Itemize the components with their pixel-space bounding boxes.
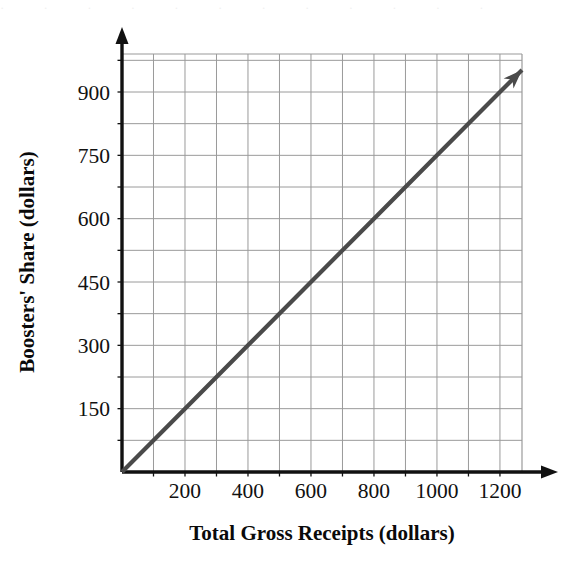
x-tick-label: 200 [169,479,201,503]
data-line-boosters-share [122,65,527,472]
x-tick-labels-group: 20040060080010001200 [169,479,522,503]
horizontal-gridlines-group [122,60,522,440]
y-tick-label: 900 [78,81,110,105]
y-tick-label: 750 [78,144,110,168]
tick-marks-group [118,60,500,476]
y-tick-label: 150 [78,397,110,421]
x-tick-label: 400 [232,479,264,503]
y-tick-labels-group: 150300450600750900 [78,81,110,422]
x-tick-label: 600 [295,479,327,503]
y-tick-label: 450 [78,271,110,295]
x-tick-label: 1200 [478,479,521,503]
y-tick-label: 600 [78,207,110,231]
y-axis-title: Boosters' Share (dollars) [15,151,39,372]
chart-container: · · · · · · · · · · · · 2004006008001000… [0,0,574,566]
vertical-gridlines-group [153,54,499,472]
x-tick-label: 800 [358,479,390,503]
data-line [122,70,522,472]
coordinate-plot: 20040060080010001200 150300450600750900 … [0,0,574,566]
x-axis-title: Total Gross Receipts (dollars) [189,521,454,545]
x-axis-arrowhead-icon [541,466,558,479]
y-axis-arrowhead-icon [116,27,129,44]
x-tick-label: 1000 [415,479,458,503]
y-tick-label: 300 [78,334,110,358]
